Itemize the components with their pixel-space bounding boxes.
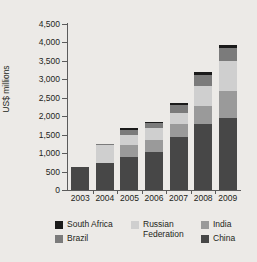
y-axis-tick-mark (62, 61, 67, 62)
y-axis-tick-label: 1,000 (39, 149, 60, 157)
y-axis-tick-mark (62, 135, 67, 136)
legend-item-label: China (213, 234, 235, 244)
bar-segment-india (120, 145, 138, 157)
bar-stack (96, 24, 114, 190)
y-axis-tick-label: 3,500 (39, 57, 60, 65)
bar-group (71, 24, 89, 190)
bar-segment-russian-federation (219, 61, 237, 92)
legend-item[interactable]: Russian Federation (131, 220, 184, 242)
y-axis-tick-label: 4,500 (39, 20, 60, 28)
bar-group (96, 24, 114, 190)
bar-stack (71, 24, 89, 190)
legend-item[interactable]: Brazil (55, 234, 113, 245)
bar-segment-brazil (96, 144, 114, 145)
legend-item[interactable]: India (201, 220, 235, 231)
bar-stack (120, 24, 138, 190)
bar-segment-russian-federation (96, 145, 114, 164)
bar-group (120, 24, 138, 190)
legend-item-label: Russian Federation (143, 220, 184, 239)
legend-column: IndiaChina (201, 220, 235, 248)
x-axis-tick-label: 2009 (214, 193, 242, 203)
bar-segment-south-africa (170, 103, 188, 104)
legend-item[interactable]: China (201, 234, 235, 245)
legend-item-label: Brazil (67, 234, 88, 244)
bar-segment-china (145, 152, 163, 190)
bar-segment-russian-federation (170, 113, 188, 124)
bar-segment-china (96, 163, 114, 190)
y-axis-tick-mark (62, 79, 67, 80)
y-axis-tick-label: 3,000 (39, 75, 60, 83)
bar-segment-brazil (194, 75, 212, 87)
legend-item[interactable]: South Africa (55, 220, 113, 231)
stacked-bar-chart: US$ millions 05001,0001,5002,0002,5003,0… (0, 0, 257, 262)
legend-swatch-russian-federation (131, 221, 139, 229)
y-axis-tick-label: 4,000 (39, 38, 60, 46)
bar-segment-south-africa (194, 72, 212, 75)
chart-legend: South AfricaBrazilRussian FederationIndi… (55, 220, 255, 254)
bar-segment-russian-federation (120, 135, 138, 144)
legend-swatch-india (201, 221, 209, 229)
bar-segment-india (194, 106, 212, 124)
bar-segment-india (219, 91, 237, 118)
legend-swatch-south-africa (55, 221, 63, 229)
y-axis-tick-label: 1,500 (39, 131, 60, 139)
y-axis-tick-label: 500 (46, 168, 60, 176)
bar-segment-russian-federation (194, 86, 212, 105)
bar-segment-south-africa (219, 45, 237, 47)
bar-segment-brazil (219, 48, 237, 61)
y-axis-tick-label: 0 (55, 186, 60, 194)
bar-stack (219, 24, 237, 190)
bar-stack (194, 24, 212, 190)
bar-segment-brazil (170, 105, 188, 113)
y-axis-tick-mark (62, 42, 67, 43)
bar-group (145, 24, 163, 190)
bar-segment-south-africa (145, 122, 163, 123)
bar-group (219, 24, 237, 190)
y-axis-tick-label: 2,500 (39, 94, 60, 102)
bar-segment-china (71, 167, 89, 190)
bar-segment-south-africa (120, 128, 138, 129)
y-axis-tick-mark (62, 98, 67, 99)
legend-item-label: India (213, 220, 231, 230)
y-axis-tick-label: 2,000 (39, 112, 60, 120)
legend-item-label: South Africa (67, 220, 113, 230)
bar-segment-russian-federation (145, 128, 163, 140)
bar-segment-china (219, 118, 237, 190)
y-axis-tick-mark (62, 153, 67, 154)
y-axis-tick-mark (62, 116, 67, 117)
bar-group (194, 24, 212, 190)
bar-segment-china (194, 124, 212, 190)
bar-segment-brazil (145, 123, 163, 128)
legend-column: South AfricaBrazil (55, 220, 113, 248)
bar-segment-india (145, 140, 163, 152)
y-axis-tick-mark (62, 190, 67, 191)
legend-swatch-china (201, 235, 209, 243)
y-axis-tick-mark (62, 172, 67, 173)
bar-group (170, 24, 188, 190)
y-axis-tick-labels: 05001,0001,5002,0002,5003,0003,5004,0004… (0, 0, 60, 262)
legend-column: Russian Federation (131, 220, 184, 245)
bar-segment-china (170, 137, 188, 190)
y-axis-tick-mark (62, 24, 67, 25)
bar-segment-brazil (120, 130, 138, 136)
bar-stack (145, 24, 163, 190)
bar-stack (170, 24, 188, 190)
bar-segment-india (170, 124, 188, 137)
legend-swatch-brazil (55, 235, 63, 243)
bar-segment-china (120, 157, 138, 190)
